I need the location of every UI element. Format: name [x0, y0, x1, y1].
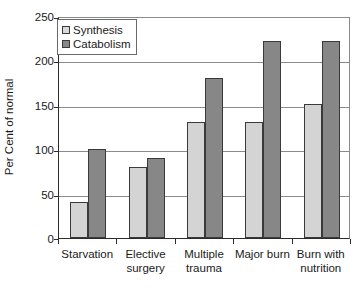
x-axis-label-line2: trauma — [175, 261, 233, 275]
bar-chart: Per Cent of normal 050100150200250 Starv… — [0, 0, 362, 290]
y-axis-tick-label: 150 — [20, 101, 54, 112]
y-axis-tick-label: 0 — [20, 234, 54, 245]
x-axis-tick — [116, 239, 117, 244]
x-axis-label: Multipletrauma — [175, 247, 233, 275]
x-axis-tick — [292, 239, 293, 244]
bar-synthesis — [129, 167, 147, 238]
y-axis-title-text: Per Cent of normal — [3, 79, 15, 176]
x-axis-label-line1: Starvation — [58, 247, 116, 261]
x-axis-tick — [175, 239, 176, 244]
legend-swatch-icon — [62, 40, 70, 48]
legend-item-label: Catabolism — [73, 38, 131, 51]
y-axis-tick-label: 200 — [20, 56, 54, 67]
bar-synthesis — [245, 122, 263, 238]
y-axis-tick-label: 100 — [20, 145, 54, 156]
y-axis-title: Per Cent of normal — [1, 14, 17, 240]
bar-catabolism — [147, 158, 165, 238]
x-axis-label-line1: Elective — [116, 247, 174, 261]
bar-catabolism — [88, 149, 106, 238]
bar-synthesis — [187, 122, 205, 238]
x-axis-category-labels: StarvationElectivesurgeryMultipletraumaM… — [58, 247, 350, 287]
legend-item: Synthesis — [62, 23, 131, 37]
bar-catabolism — [205, 78, 223, 238]
y-axis-tick-label: 50 — [20, 190, 54, 201]
bar-catabolism — [263, 41, 281, 238]
y-axis-tick-labels: 050100150200250 — [16, 0, 54, 290]
x-axis-label: Burn withnutrition — [292, 247, 350, 275]
bar-synthesis — [304, 104, 322, 238]
x-axis-ticks — [58, 239, 351, 245]
x-axis-label-line1: Burn with — [292, 247, 350, 261]
bar-catabolism — [322, 41, 340, 238]
legend-swatch-icon — [62, 26, 70, 34]
x-axis-label-line1: Multiple — [175, 247, 233, 261]
x-axis-label: Major burn — [233, 247, 291, 261]
x-axis-label: Starvation — [58, 247, 116, 261]
bar-synthesis — [70, 202, 88, 238]
x-axis-label-line2: nutrition — [292, 261, 350, 275]
x-axis-tick — [350, 239, 351, 244]
y-axis-tick-label: 250 — [20, 12, 54, 23]
x-axis-tick — [58, 239, 59, 244]
legend-item-label: Synthesis — [73, 24, 123, 37]
chart-legend: SynthesisCatabolism — [57, 19, 137, 55]
x-axis-tick — [233, 239, 234, 244]
x-axis-label-line2: surgery — [116, 261, 174, 275]
x-axis-label: Electivesurgery — [116, 247, 174, 275]
legend-item: Catabolism — [62, 37, 131, 51]
x-axis-label-line1: Major burn — [233, 247, 291, 261]
